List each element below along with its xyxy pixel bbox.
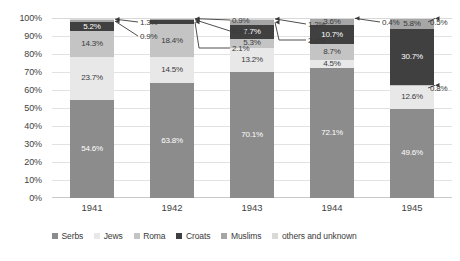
- legend-label: Roma: [143, 231, 165, 241]
- bar-segment: [70, 20, 114, 22]
- bar-segment-label: 70.1%: [241, 131, 263, 139]
- y-axis-tick-label: 30%: [24, 139, 42, 149]
- stacked-bar-chart: 0%10%20%30%40%50%60%70%80%90%100% 54.6%2…: [0, 0, 460, 261]
- bar-column: 63.8%14.5%18.4%: [150, 18, 194, 198]
- bar-segment: [70, 18, 114, 20]
- bar-segment-label: 30.7%: [401, 53, 423, 61]
- callout-label: 1.2%: [308, 20, 325, 29]
- bar-segment-label: 49.6%: [401, 149, 423, 157]
- bar-segment-label: 3.6%: [323, 18, 340, 26]
- bar-segment-label: 63.8%: [161, 137, 183, 145]
- bar-column: 72.1%4.5%8.7%10.7%3.6%: [310, 18, 354, 198]
- y-axis-tick-label: 10%: [24, 175, 42, 185]
- bars-layer: 54.6%23.7%14.3%5.2%63.8%14.5%18.4%70.1%1…: [52, 18, 452, 198]
- bar-segment: 30.7%: [390, 29, 434, 84]
- legend-item-croats[interactable]: Croats: [176, 231, 210, 241]
- legend-label: Croats: [186, 231, 210, 241]
- legend-swatch-icon: [272, 233, 278, 239]
- bar-segment: 18.4%: [150, 24, 194, 57]
- x-axis-tick-label: 1942: [161, 202, 182, 213]
- bar-segment: [390, 85, 434, 86]
- legend-item-muslims[interactable]: Muslims: [221, 231, 261, 241]
- y-axis-tick-label: 90%: [24, 31, 42, 41]
- plot-area: 54.6%23.7%14.3%5.2%63.8%14.5%18.4%70.1%1…: [52, 18, 452, 198]
- bar-segment: 5.2%: [70, 22, 114, 31]
- y-axis-tick-label: 70%: [24, 67, 42, 77]
- callout-label: 2.1%: [232, 44, 249, 53]
- legend-item-others-and-unknown[interactable]: others and unknown: [272, 231, 356, 241]
- legend-swatch-icon: [176, 233, 182, 239]
- bar-segment-label: 4.5%: [323, 60, 340, 68]
- bar-segment-label: 5.2%: [83, 23, 100, 31]
- legend-item-jews[interactable]: Jews: [94, 231, 122, 241]
- callout-label: 1.3%: [140, 18, 157, 27]
- callout-label: 0.9%: [140, 32, 157, 41]
- bar-segment-label: 13.2%: [241, 56, 263, 64]
- bar-segment: 8.7%: [310, 44, 354, 60]
- chart-legend: SerbsJewsRomaCroatsMuslimsothers and unk…: [52, 228, 452, 244]
- legend-label: Jews: [104, 231, 123, 241]
- legend-swatch-icon: [94, 233, 100, 239]
- y-axis-tick-label: 20%: [24, 157, 42, 167]
- bar-segment: 70.1%: [230, 72, 274, 198]
- y-axis: 0%10%20%30%40%50%60%70%80%90%100%: [0, 18, 46, 198]
- bar-segment-label: 72.1%: [321, 129, 343, 137]
- bar-segment-label: 18.4%: [161, 37, 183, 45]
- bar-segment: 14.5%: [150, 57, 194, 83]
- y-axis-tick-label: 80%: [24, 49, 42, 59]
- bar-segment-label: 8.7%: [323, 48, 340, 56]
- bar-segment: 72.1%: [310, 68, 354, 198]
- bar-segment: 54.6%: [70, 100, 114, 198]
- callout-label: 0.9%: [232, 16, 249, 25]
- bar-segment: 23.7%: [70, 57, 114, 100]
- y-axis-tick-label: 0%: [29, 193, 42, 203]
- x-axis-tick-label: 1944: [321, 202, 342, 213]
- bar-segment-label: 12.6%: [401, 93, 423, 101]
- legend-item-serbs[interactable]: Serbs: [52, 231, 83, 241]
- callout-label: 0.4%: [382, 18, 399, 27]
- callout-label: 0.5%: [430, 18, 447, 27]
- bar-segment-label: 5.8%: [403, 20, 420, 28]
- callout-label: 2.6%: [308, 36, 325, 45]
- y-axis-tick-label: 40%: [24, 121, 42, 131]
- bar-segment: 12.6%: [390, 86, 434, 109]
- legend-swatch-icon: [52, 233, 58, 239]
- callout-label: 0.4%: [232, 27, 249, 36]
- bar-segment: 49.6%: [390, 109, 434, 198]
- legend-label: others and unknown: [282, 231, 357, 241]
- x-axis: 19411942194319441945: [52, 200, 452, 218]
- bar-column: 54.6%23.7%14.3%5.2%: [70, 18, 114, 198]
- bar-segment: 14.3%: [70, 31, 114, 57]
- legend-swatch-icon: [134, 233, 140, 239]
- callout-label: 0.8%: [430, 84, 447, 93]
- x-axis-tick-label: 1943: [241, 202, 262, 213]
- bar-column: 49.6%12.6%30.7%5.8%: [390, 18, 434, 198]
- legend-label: Serbs: [62, 231, 84, 241]
- bar-segment-label: 54.6%: [81, 145, 103, 153]
- bar-segment-label: 14.5%: [161, 66, 183, 74]
- x-axis-tick-label: 1945: [401, 202, 422, 213]
- y-axis-tick-label: 60%: [24, 85, 42, 95]
- bar-segment-label: 14.3%: [81, 40, 103, 48]
- legend-label: Muslims: [231, 231, 261, 241]
- legend-item-roma[interactable]: Roma: [134, 231, 166, 241]
- bar-segment: 4.5%: [310, 60, 354, 68]
- x-axis-tick-label: 1941: [81, 202, 102, 213]
- bar-segment-label: 23.7%: [81, 74, 103, 82]
- y-axis-tick-label: 50%: [24, 103, 42, 113]
- bar-segment: 63.8%: [150, 83, 194, 198]
- legend-swatch-icon: [221, 233, 227, 239]
- y-axis-tick-label: 100%: [19, 13, 42, 23]
